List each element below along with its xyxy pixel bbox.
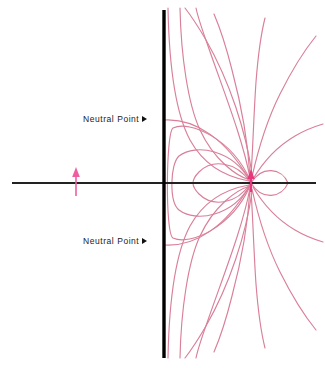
field-line-neutral-upper	[164, 120, 249, 179]
probe-arrow	[72, 167, 80, 196]
field-line-upper-far-2	[180, 8, 250, 180]
field-line-upper-1	[196, 8, 250, 178]
annotation-neutral-point-bottom: Neutral Point	[83, 236, 147, 246]
field-line-lower-4	[252, 189, 316, 330]
annotation-label-text: Neutral Point	[83, 114, 139, 124]
field-line-upper-4	[252, 36, 316, 177]
annotation-label-text: Neutral Point	[83, 236, 139, 246]
field-line-diagram: Neutral Point Neutral Point	[0, 0, 325, 368]
right-triangle-marker-icon	[142, 116, 147, 122]
field-line-lower-far-2	[180, 186, 250, 358]
field-line-lower-1	[196, 188, 250, 358]
field-line-upper-5	[253, 124, 323, 179]
field-line-lower-5	[253, 187, 323, 242]
annotation-neutral-point-top: Neutral Point	[83, 114, 147, 124]
right-triangle-marker-icon	[142, 238, 147, 244]
field-lines-canvas	[0, 0, 325, 368]
